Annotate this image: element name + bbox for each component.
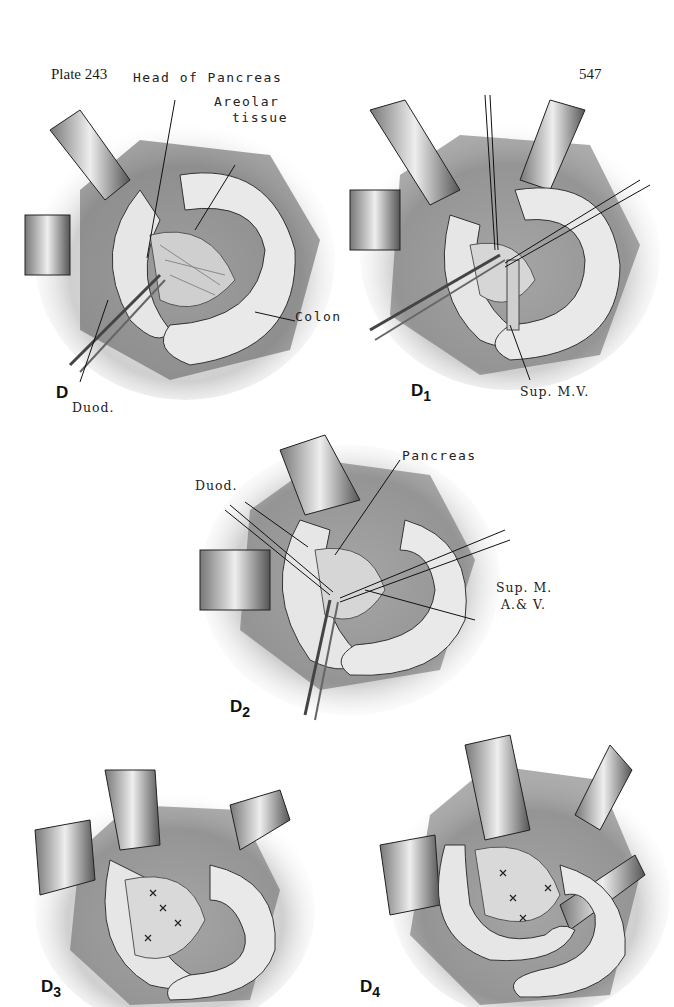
annotation-areolar: Areolar — [214, 94, 279, 109]
page-number: 547 — [579, 66, 602, 83]
surgical-illustration-d4 — [370, 735, 670, 1007]
figure-label-d2: D2 — [230, 697, 250, 720]
annotation-colon: Colon — [295, 309, 342, 324]
surgical-illustration-d1 — [350, 95, 660, 385]
surgical-illustration-d3 — [30, 770, 310, 1007]
annotation-sup-mv: Sup. M.V. — [520, 384, 589, 399]
surgical-illustration-d — [20, 100, 340, 400]
annotation-sup-m: Sup. M. — [496, 580, 552, 595]
figure-label-d4: D4 — [360, 977, 380, 1000]
annotation-tissue: tissue — [232, 110, 288, 125]
annotation-a-and-v: A.& V. — [501, 597, 546, 612]
annotation-pancreas: Pancreas — [402, 448, 477, 463]
figure-label-d: D — [56, 383, 68, 406]
plate-label: Plate 243 — [51, 66, 107, 83]
annotation-duod: Duod. — [72, 400, 115, 415]
figure-label-d1: D1 — [411, 381, 431, 404]
annotation-head-of-pancreas: Head of Pancreas — [133, 70, 282, 85]
surgical-illustration-d2 — [190, 430, 500, 720]
figure-label-d3: D3 — [41, 977, 61, 1000]
annotation-duod: Duod. — [195, 478, 238, 493]
